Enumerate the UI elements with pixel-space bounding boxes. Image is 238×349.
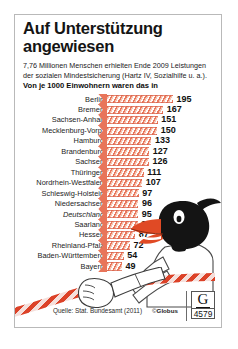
- bar-label: Hamburg: [15, 136, 104, 145]
- bar-edge-top: [105, 158, 149, 159]
- bar-label: Sachsen-Anhalt: [15, 115, 104, 124]
- bar-label: Deutschland: [15, 210, 104, 219]
- bar-edge-top: [105, 127, 157, 128]
- bar-label: Schleswig-Holstein: [15, 189, 104, 198]
- bar-value: 111: [147, 167, 161, 177]
- page-title: Auf Unterstützung angewiesen: [23, 20, 213, 55]
- bar-segment: [105, 168, 144, 176]
- bar-segment: [105, 116, 158, 124]
- bar-segment: [105, 252, 124, 260]
- bar-value: 107: [146, 177, 161, 187]
- bar-track: [105, 179, 142, 187]
- bar-edge-top: [105, 168, 144, 169]
- bar-track: [105, 127, 157, 135]
- bar-label: Sachsen: [15, 157, 104, 166]
- bar-value: 126: [152, 156, 167, 166]
- globus-logo-number: 4579: [192, 308, 214, 320]
- bar-label: Niedersachsen: [15, 199, 104, 208]
- bar-track: [105, 147, 149, 155]
- bar-segment: [105, 158, 149, 166]
- bar-edge-top: [105, 179, 142, 180]
- bar-label: Mecklenburg-Vorp.: [15, 126, 104, 135]
- globus-logo-letter: G: [192, 291, 214, 308]
- bar-edge-top: [105, 147, 149, 148]
- bar-label: Berlin: [15, 95, 104, 104]
- source-note: Quelle: Stat. Bundesamt (2011): [53, 307, 142, 314]
- bar-edge-top: [105, 95, 173, 96]
- bar-track: [105, 116, 158, 124]
- bar-value: 133: [155, 135, 170, 145]
- bar-label: Saarland: [15, 220, 104, 229]
- bar-edge-top: [105, 137, 151, 138]
- bar-track: [105, 168, 144, 176]
- bar-label: Brandenburg: [15, 147, 104, 156]
- bar-track: [105, 137, 151, 145]
- bar-value: 127: [153, 146, 168, 156]
- bar-segment: [105, 147, 149, 155]
- footer-divider: [186, 291, 187, 321]
- bar-label: Hessen: [15, 230, 104, 239]
- bar-edge-top: [105, 252, 124, 253]
- bar-track: [105, 158, 149, 166]
- bar-label: Bremen: [15, 105, 104, 114]
- bar-segment: [105, 137, 151, 145]
- bar-value: 167: [167, 104, 182, 114]
- bar-segment: [105, 95, 173, 103]
- bar-label: Rheinland-Pfalz: [15, 241, 104, 250]
- copyright-note: ©Globus: [152, 307, 178, 314]
- bar-edge-top: [105, 106, 163, 107]
- bar-edge-top: [105, 116, 158, 117]
- bar-track: [105, 106, 163, 114]
- bar-track: [105, 252, 124, 260]
- subtitle-emphasis: Von je 1000 Einwohnern waren das in: [23, 81, 215, 90]
- globus-logo: G 4579: [191, 291, 215, 319]
- copyright-name: Globus: [157, 307, 178, 314]
- infographic-card: Auf Unterstützung angewiesen 7,76 Millio…: [14, 14, 222, 328]
- bar-value: 150: [161, 125, 176, 135]
- bar-value: 151: [161, 114, 176, 124]
- bar-label: Nordrhein-Westfalen: [15, 178, 104, 187]
- bar-value: 195: [177, 94, 192, 104]
- bar-label: Thüringen: [15, 168, 104, 177]
- bar-edge-top: [105, 262, 122, 263]
- bar-edge-top: [105, 189, 139, 190]
- subtitle-text: 7,76 Millionen Menschen erhielten Ende 2…: [23, 61, 215, 80]
- bar-segment: [105, 179, 142, 187]
- bar-label: Baden-Württemberg: [15, 251, 104, 260]
- bar-segment: [105, 127, 157, 135]
- bar-segment: [105, 106, 163, 114]
- bar-track: [105, 95, 173, 103]
